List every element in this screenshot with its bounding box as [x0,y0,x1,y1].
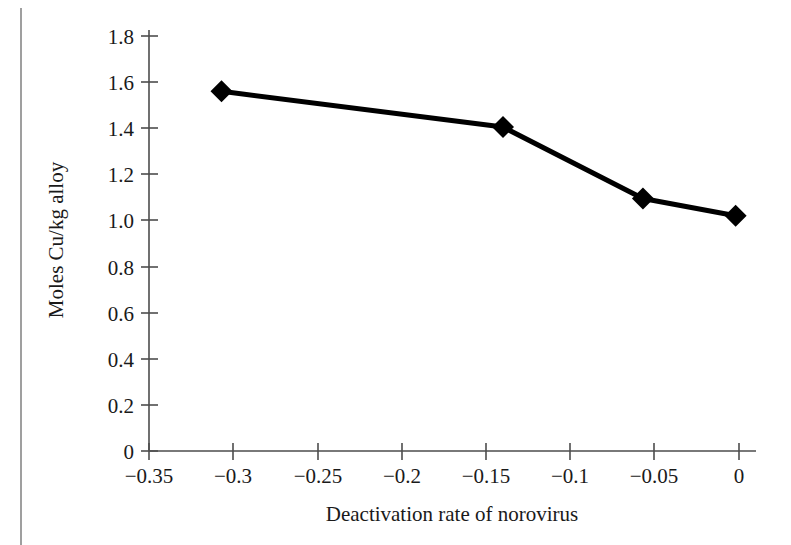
y-tick-label: 0.2 [108,394,134,418]
data-series-line [222,91,736,216]
y-tick-label: 1.2 [108,163,134,187]
x-axis-tick-labels: −0.35 −0.3 −0.25 −0.2 −0.15 −0.1 −0.05 0 [125,464,745,488]
chart-figure: 0 0.2 0.4 0.6 0.8 1.0 1.2 1.4 1.6 1.8 −0… [0,0,791,545]
y-tick-label: 0.4 [108,348,135,372]
x-tick-label: −0.25 [294,464,343,488]
y-tick-label: 1.8 [108,25,134,49]
x-tick-label: 0 [734,464,745,488]
data-point-marker [210,80,232,102]
x-axis-title: Deactivation rate of norovirus [326,502,579,526]
y-tick-label: 0.6 [108,302,134,326]
y-axis-tick-labels: 0 0.2 0.4 0.6 0.8 1.0 1.2 1.4 1.6 1.8 [108,25,135,464]
y-axis-title: Moles Cu/kg alloy [44,161,68,318]
y-tick-label: 0.8 [108,256,134,280]
y-tick-label: 1.0 [108,209,134,233]
x-tick-label: −0.1 [551,464,589,488]
data-point-marker [492,116,514,138]
line-chart: 0 0.2 0.4 0.6 0.8 1.0 1.2 1.4 1.6 1.8 −0… [0,0,791,545]
x-tick-label: −0.2 [383,464,421,488]
x-tick-label: −0.05 [630,464,679,488]
x-tick-label: −0.3 [214,464,252,488]
y-tick-label: 0 [124,440,135,464]
data-point-marker [632,188,654,210]
y-tick-label: 1.6 [108,71,134,95]
x-tick-label: −0.35 [125,464,174,488]
y-tick-label: 1.4 [108,117,135,141]
x-tick-label: −0.15 [462,464,511,488]
data-point-marker [725,205,747,227]
